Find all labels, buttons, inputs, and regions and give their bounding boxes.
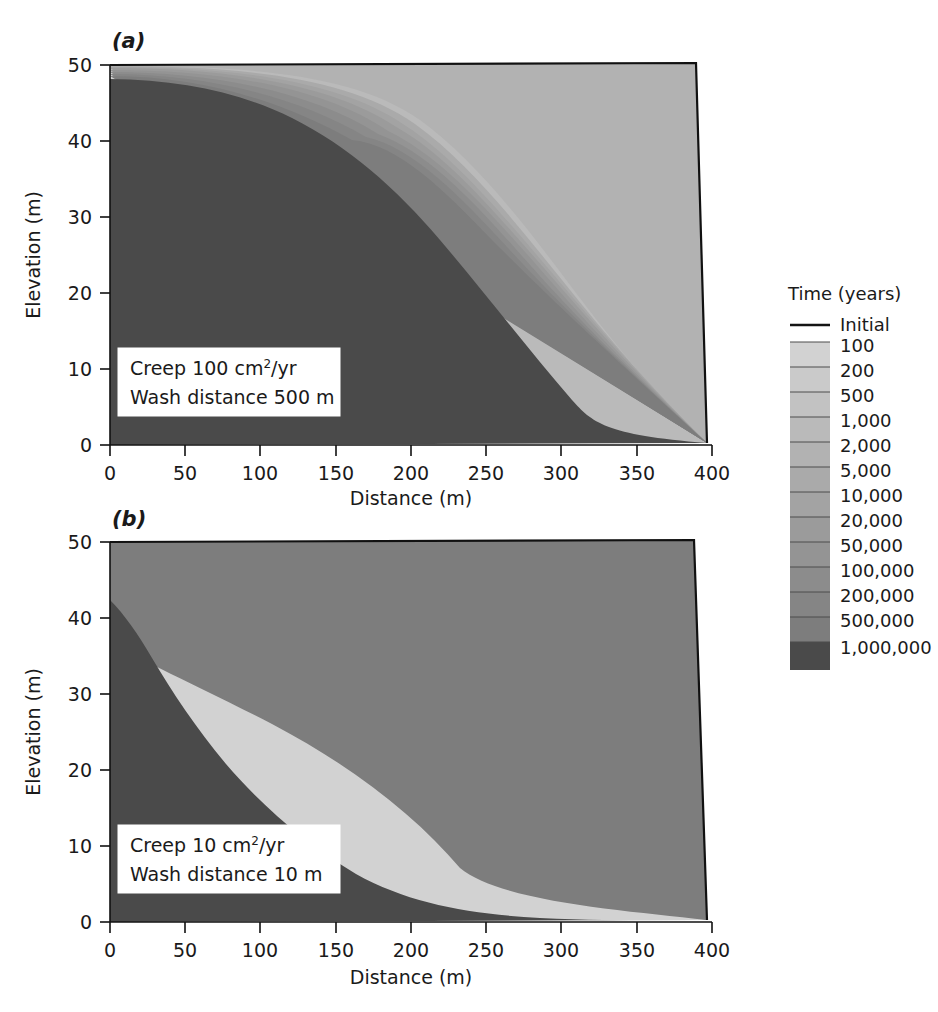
legend-label-10000: 10,000 <box>840 485 903 506</box>
panel-b-xtick-150: 150 <box>318 939 354 961</box>
legend-swatch-5000 <box>790 467 830 492</box>
panel-a-xtick-50: 50 <box>173 462 197 484</box>
panel-b-x-axis-title: Distance (m) <box>350 966 472 988</box>
panel-b-ytick-40: 40 <box>68 607 92 629</box>
panel-b-creep-sup: 2 <box>251 834 259 848</box>
panel-a-x-ticks: 0 50 100 150 200 250 300 350 400 <box>104 445 730 484</box>
panel-b-xtick-250: 250 <box>468 939 504 961</box>
panel-b-ytick-10: 10 <box>68 835 92 857</box>
legend-label-100: 100 <box>840 335 874 356</box>
panel-a-y-axis-title: Elevation (m) <box>22 191 44 319</box>
panel-a-label: (a) <box>112 29 145 53</box>
legend-swatch-500000 <box>790 617 830 642</box>
legend-swatch-2000 <box>790 442 830 467</box>
panel-a-ytick-40: 40 <box>68 130 92 152</box>
panel-a-xtick-250: 250 <box>468 462 504 484</box>
panel-b-annotation: Creep 10 cm2/yr Wash distance 10 m <box>118 825 340 893</box>
panel-b-ytick-0: 0 <box>80 911 92 933</box>
panel-a-ytick-10: 10 <box>68 358 92 380</box>
panel-a-creep-pre: Creep 100 cm <box>130 357 263 379</box>
panel-a-xtick-200: 200 <box>393 462 429 484</box>
legend-swatch-10000 <box>790 492 830 517</box>
svg-text:Creep 10 cm2/yr: Creep 10 cm2/yr <box>130 834 285 856</box>
panel-a-xtick-350: 350 <box>619 462 655 484</box>
legend-label-20000: 20,000 <box>840 510 903 531</box>
legend-swatch-50000 <box>790 542 830 567</box>
panel-b-y-ticks: 0 10 20 30 40 50 <box>68 531 110 933</box>
legend-swatch-1000 <box>790 417 830 442</box>
panel-b: (b) Creep 10 cm2/yr Wash distance 10 m <box>0 502 760 1012</box>
panel-b-xtick-100: 100 <box>242 939 278 961</box>
legend-title: Time (years) <box>787 283 901 304</box>
legend-label-500000: 500,000 <box>840 610 914 631</box>
panel-b-creep-post: /yr <box>259 834 285 856</box>
panel-a-ytick-30: 30 <box>68 206 92 228</box>
legend-label-100000: 100,000 <box>840 560 914 581</box>
legend-labels: 100 200 500 1,000 2,000 5,000 10,000 20,… <box>840 335 932 658</box>
panel-a-ytick-20: 20 <box>68 282 92 304</box>
panel-b-xtick-200: 200 <box>393 939 429 961</box>
panel-b-x-ticks: 0 50 100 150 200 250 300 350 400 <box>104 922 730 961</box>
legend-label-2000: 2,000 <box>840 435 892 456</box>
panel-b-creep-pre: Creep 10 cm <box>130 834 251 856</box>
svg-text:Creep 100 cm2/yr: Creep 100 cm2/yr <box>130 357 297 379</box>
panel-b-wash: Wash distance 10 m <box>130 863 322 885</box>
panel-a-ytick-0: 0 <box>80 434 92 456</box>
legend-label-200: 200 <box>840 360 874 381</box>
panel-a-creep-sup: 2 <box>263 357 271 371</box>
legend-label-5000: 5,000 <box>840 460 892 481</box>
panel-b-xtick-0: 0 <box>104 939 116 961</box>
panel-b-xtick-400: 400 <box>694 939 730 961</box>
legend-label-50000: 50,000 <box>840 535 903 556</box>
legend-entry-initial[interactable]: Initial <box>790 314 890 335</box>
panel-b-ytick-30: 30 <box>68 683 92 705</box>
legend-swatch-200 <box>790 367 830 392</box>
panel-b-xtick-50: 50 <box>173 939 197 961</box>
legend-label-1000000: 1,000,000 <box>840 637 932 658</box>
panel-b-label: (b) <box>112 507 146 531</box>
panel-b-xtick-350: 350 <box>619 939 655 961</box>
panel-a-xtick-150: 150 <box>318 462 354 484</box>
panel-a-annotation: Creep 100 cm2/yr Wash distance 500 m <box>118 348 340 416</box>
panel-b-ytick-50: 50 <box>68 531 92 553</box>
panel-a: (a) Creep 100 cm2/yr <box>0 0 760 510</box>
panel-a-wash: Wash distance 500 m <box>130 386 335 408</box>
legend-colorbar[interactable] <box>790 342 830 670</box>
legend: Time (years) Initial <box>778 282 938 732</box>
panel-a-xtick-400: 400 <box>694 462 730 484</box>
panel-b-xtick-300: 300 <box>543 939 579 961</box>
panel-b-y-axis-title: Elevation (m) <box>22 668 44 796</box>
legend-swatch-200000 <box>790 592 830 617</box>
panel-a-xtick-300: 300 <box>543 462 579 484</box>
legend-swatch-100000 <box>790 567 830 592</box>
legend-swatch-500 <box>790 392 830 417</box>
legend-swatch-1000000 <box>790 642 830 670</box>
panel-a-creep-post: /yr <box>271 357 297 379</box>
panel-b-ytick-20: 20 <box>68 759 92 781</box>
panel-a-xtick-0: 0 <box>104 462 116 484</box>
legend-initial-label: Initial <box>840 314 890 335</box>
panel-a-y-ticks: 0 10 20 30 40 50 <box>68 54 110 456</box>
legend-label-200000: 200,000 <box>840 585 914 606</box>
panel-a-ytick-50: 50 <box>68 54 92 76</box>
legend-swatch-100 <box>790 342 830 367</box>
legend-swatch-20000 <box>790 517 830 542</box>
figure-root: (a) Creep 100 cm2/yr <box>0 0 938 1012</box>
legend-label-1000: 1,000 <box>840 410 892 431</box>
legend-label-500: 500 <box>840 385 874 406</box>
panel-a-xtick-100: 100 <box>242 462 278 484</box>
